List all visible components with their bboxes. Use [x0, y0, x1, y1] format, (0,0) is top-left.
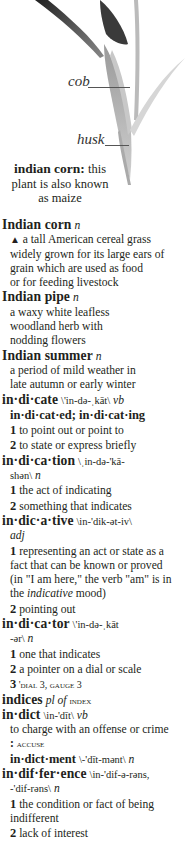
definition-line: a waxy white leafless: [2, 306, 188, 320]
sense-line: 2 lack of interest: [2, 826, 188, 841]
colon-marker: :: [10, 737, 17, 750]
part-of-speech: n: [74, 219, 80, 232]
headword: Indian corn: [2, 217, 71, 232]
illustration-caption: indian corn: this plant is also known as…: [10, 162, 110, 206]
headword: Indian summer: [2, 348, 93, 363]
definition-text: to charge with an offense or crime: [10, 723, 169, 736]
sense-line: 2 pointing out: [2, 602, 188, 617]
definition-text: one that indicates: [16, 648, 100, 661]
definition-text: (in "I am here," the verb "am" is in: [10, 573, 172, 586]
husk-label: husk: [77, 131, 105, 148]
pronunciation: -ər\: [10, 633, 25, 644]
entry-headword-line: Indian pipe n: [2, 290, 188, 305]
sense-line: 1 the condition or fact of being: [2, 797, 188, 812]
sense-line: 1 one that indicates: [2, 647, 188, 662]
italic-term: indicative: [27, 587, 73, 600]
entry-headword-line: indices pl of index: [2, 693, 188, 708]
definition-text: to point out or point to: [16, 424, 124, 437]
run-on-entry: in·dict·ment \-'dīt-mənt\ n: [2, 752, 188, 767]
definition-text: mood): [73, 587, 106, 600]
sense-line: 3 'dial 3, gauge 3: [2, 677, 188, 692]
definition-text: 'dial 3, gauge 3: [16, 679, 82, 690]
pronunciation: \in-'dīt\: [43, 710, 73, 721]
headword: in·di·ca·tion: [2, 453, 75, 468]
sense-line: 2 something that indicates: [2, 499, 188, 514]
synonym: accuse: [17, 738, 45, 749]
part-of-speech: n: [129, 753, 135, 766]
pronunciation: \in-'dif-ə-rəns,: [89, 769, 149, 780]
cob-leader-line: [88, 87, 130, 88]
entry-headword-line: Indian corn n: [2, 218, 188, 233]
sense-line: 1 to point out or point to: [2, 423, 188, 438]
pronunciation: shən\: [10, 470, 32, 481]
synonym-line: : accuse: [2, 737, 188, 751]
entry-headword-line: in·di·cate \'in-də-ˌkāt\ vb: [2, 393, 188, 408]
sense-line: 1 the act of indicating: [2, 483, 188, 498]
entry-headword-line: Indian summer n: [2, 349, 188, 364]
definition-text: woodland herb with: [10, 320, 103, 333]
definition-text: something that indicates: [16, 500, 132, 513]
headword: in·dif·fer·ence: [2, 766, 87, 781]
definition-line: ▲ a tall American cereal grass: [2, 233, 188, 247]
pronunciation: -'dif-rəns\: [10, 783, 51, 794]
run-on-word: in·dict·ment: [10, 752, 76, 766]
entry-headword-line: in·dic·a·tive \in-'dik-ət-iv\: [2, 514, 188, 529]
definition-text: the condition or fact of being: [16, 798, 154, 811]
cross-reference: index: [69, 695, 91, 706]
part-of-speech: adj: [10, 529, 25, 542]
definition-line: (in "I am here," the verb "am" is in: [2, 573, 188, 587]
entry-headword-line: in·dif·fer·ence \in-'dif-ə-rəns,: [2, 767, 188, 782]
definition-text: nodding flowers: [10, 334, 86, 347]
caption-term: indian corn:: [14, 161, 85, 176]
part-of-speech: n: [73, 291, 79, 304]
sense-line: 2 to state or express briefly: [2, 438, 188, 453]
definition-line: woodland herb with: [2, 320, 188, 334]
definition-text: lack of interest: [16, 827, 88, 840]
definition-text: representing an act or state as a: [16, 545, 164, 558]
pronunciation-continuation: adj: [2, 529, 188, 543]
part-of-speech: n: [35, 469, 41, 482]
definition-text: the act of indicating: [16, 484, 111, 497]
headword: Indian pipe: [2, 289, 70, 304]
definition-line: fact that can be known or proved: [2, 559, 188, 573]
part-of-speech: n: [27, 632, 33, 645]
definition-line: late autumn or early winter: [2, 378, 188, 392]
part-of-speech: pl of: [46, 694, 67, 707]
definition-line: or for feeding livestock: [2, 276, 188, 290]
headword: in·di·ca·tor: [2, 616, 70, 631]
cob-label: cob: [68, 73, 90, 90]
triangle-icon: ▲: [10, 234, 20, 245]
definition-line: nodding flowers: [2, 334, 188, 348]
sense-line: 2 a pointer on a dial or scale: [2, 662, 188, 677]
definition-line: indifferent: [2, 812, 188, 826]
headword: in·dict: [2, 707, 40, 722]
headword: indices: [2, 692, 43, 707]
definition-text: pointing out: [16, 603, 75, 616]
part-of-speech: n: [96, 350, 102, 363]
definition-text: widely grown for its large ears of: [10, 248, 164, 261]
definition-line: the indicative mood): [2, 587, 188, 601]
husk-leader-line: [105, 145, 129, 146]
inflected-forms: in·di·cat·ed; in·di·cat·ing: [2, 408, 188, 423]
entry-headword-line: in·dict \in-'dīt\ vb: [2, 708, 188, 723]
dictionary-entries: Indian corn n▲ a tall American cereal gr…: [2, 218, 188, 841]
pronunciation: \in-'dik-ət-iv\: [76, 516, 132, 527]
pronunciation: \-'dīt-mənt\: [79, 754, 126, 765]
definition-text: a tall American cereal grass: [20, 233, 151, 246]
pronunciation: \'in-də-ˌkāt\: [61, 395, 110, 406]
pronunciation: \ˌin-də-'kā-: [78, 456, 125, 467]
headword: in·dic·a·tive: [2, 513, 74, 528]
definition-text: a period of mild weather in: [10, 364, 136, 377]
definition-text: indifferent: [10, 812, 59, 825]
definition-line: grain which are used as food: [2, 262, 188, 276]
definition-line: widely grown for its large ears of: [2, 248, 188, 262]
definition-text: fact that can be known or proved: [10, 559, 163, 572]
definition-text: late autumn or early winter: [10, 378, 136, 391]
entry-headword-line: in·di·ca·tion \ˌin-də-'kā-: [2, 454, 188, 469]
pronunciation-continuation: shən\ n: [2, 469, 188, 483]
part-of-speech: vb: [113, 394, 124, 407]
part-of-speech: vb: [77, 709, 88, 722]
definition-text: a waxy white leafless: [10, 306, 109, 319]
inflections: in·di·cat·ed; in·di·cat·ing: [10, 408, 145, 422]
definition-line: a period of mild weather in: [2, 364, 188, 378]
